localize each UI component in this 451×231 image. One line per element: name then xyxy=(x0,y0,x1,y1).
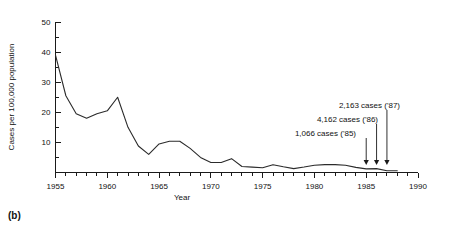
x-tick-label-1955: 1955 xyxy=(47,182,65,191)
x-tick-label-1965: 1965 xyxy=(150,182,168,191)
x-axis-ticks xyxy=(56,173,419,178)
x-tick-label-1970: 1970 xyxy=(202,182,220,191)
y-tick-label-40: 40 xyxy=(42,48,51,57)
figure-caption: (b) xyxy=(8,210,21,221)
line-chart: 1020304050 19551960196519701975198019851… xyxy=(0,0,451,231)
x-tick-label-1985: 1985 xyxy=(357,182,375,191)
annotation-label-1987: 2,163 cases ('87) xyxy=(339,101,400,110)
x-tick-label-1990: 1990 xyxy=(409,182,427,191)
x-axis-title: Year xyxy=(174,193,191,202)
y-axis-title: Cases per 100,000 population xyxy=(7,44,16,151)
annotation-label-1985: 1,066 cases ('85) xyxy=(295,129,356,138)
y-tick-label-10: 10 xyxy=(42,138,51,147)
y-tick-label-20: 20 xyxy=(42,108,51,117)
x-axis-tick-labels: 19551960196519701975198019851990 xyxy=(47,182,428,191)
annotation-arrowhead-1987 xyxy=(384,160,389,165)
y-axis-tick-labels: 1020304050 xyxy=(42,18,51,147)
y-tick-label-50: 50 xyxy=(42,18,51,27)
annotation-label-1986: 4,162 cases ('86) xyxy=(317,115,378,124)
x-tick-label-1975: 1975 xyxy=(254,182,272,191)
y-axis-ticks xyxy=(56,22,61,157)
annotation-arrowhead-1985 xyxy=(364,160,369,165)
figure-container: 1020304050 19551960196519701975198019851… xyxy=(0,0,451,231)
x-tick-label-1960: 1960 xyxy=(98,182,116,191)
annotation-arrowhead-1986 xyxy=(374,160,379,165)
data-series-line xyxy=(56,55,398,171)
x-tick-label-1980: 1980 xyxy=(306,182,324,191)
y-tick-label-30: 30 xyxy=(42,78,51,87)
